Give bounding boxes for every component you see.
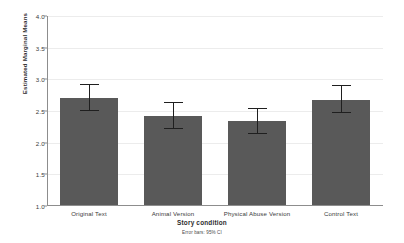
y-axis-tick-mark: [44, 47, 47, 48]
bar: [312, 100, 370, 206]
error-bar-cap-bottom: [248, 133, 267, 134]
x-axis-line: [47, 205, 383, 206]
y-axis-tick-label: 4.0: [0, 13, 45, 20]
error-bar-cap-bottom: [164, 128, 183, 129]
error-bar: [161, 102, 185, 129]
y-axis-tick-mark: [44, 142, 47, 143]
x-axis-tick-label: Original Text: [47, 210, 131, 217]
y-axis-tick-label: 1.5: [0, 171, 45, 178]
y-axis-tick-mark: [44, 111, 47, 112]
plot-area: [47, 16, 383, 206]
bar: [144, 116, 202, 206]
y-axis-tick-label: 3.5: [0, 44, 45, 51]
error-bar-cap-bottom: [80, 110, 99, 111]
gridline: [47, 79, 383, 80]
error-bar: [329, 85, 353, 113]
y-axis-tick-mark: [44, 206, 47, 207]
error-bar-stem: [173, 102, 174, 129]
error-bar: [245, 108, 269, 135]
x-axis-tick-label: Physical Abuse Version: [215, 210, 299, 217]
error-bar-cap-top: [248, 108, 267, 109]
x-axis-title: Story condition: [0, 219, 404, 226]
bar-chart: Estimated Marginal Means Story condition…: [0, 0, 404, 243]
x-axis-tick-label: Control Text: [299, 210, 383, 217]
y-axis-line: [47, 16, 48, 206]
error-bar-stem: [341, 85, 342, 113]
error-bar-cap-top: [332, 85, 351, 86]
gridline: [47, 48, 383, 49]
error-bar-note: Error bars: 95% CI: [0, 230, 404, 235]
error-bar-stem: [89, 84, 90, 111]
error-bar-cap-top: [164, 102, 183, 103]
error-bar-cap-bottom: [332, 112, 351, 113]
error-bar: [77, 84, 101, 111]
error-bar-stem: [257, 108, 258, 135]
y-axis-tick-label: 1.0: [0, 203, 45, 210]
y-axis-tick-label: 2.0: [0, 139, 45, 146]
y-axis-tick-mark: [44, 79, 47, 80]
x-axis-tick-label: Animal Version: [131, 210, 215, 217]
bar: [60, 98, 118, 206]
y-axis-tick-mark: [44, 16, 47, 17]
gridline: [47, 16, 383, 17]
y-axis-tick-label: 3.0: [0, 76, 45, 83]
error-bar-cap-top: [80, 84, 99, 85]
y-axis-tick-label: 2.5: [0, 108, 45, 115]
y-axis-tick-mark: [44, 174, 47, 175]
